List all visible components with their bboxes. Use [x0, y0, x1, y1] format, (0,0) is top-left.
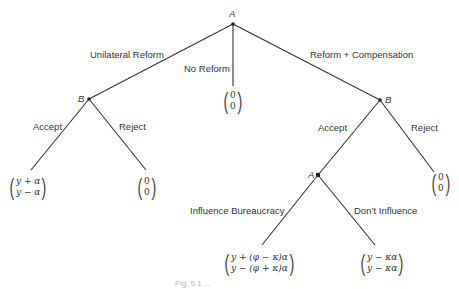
payoff-influence: ( y + (φ − κ)αy − (φ + κ)α ) [223, 251, 296, 275]
node-root-dot [231, 22, 235, 26]
payoff-bottom: 0 [438, 183, 444, 194]
payoff-bottom: 0 [144, 187, 150, 198]
edge-unilateral-reform [89, 24, 233, 99]
figure-caption: Fig. 5.1 ... [175, 279, 211, 288]
edge-label-no-reform: No Reform [184, 63, 230, 74]
edge-right-reject [380, 100, 434, 172]
node-root-label: A [229, 8, 235, 19]
payoff-top: 0 [144, 176, 150, 187]
right-paren-icon: ) [151, 175, 156, 199]
node-right-b-label: B [385, 94, 391, 105]
payoff-left-accept: ( y + αy − α ) [8, 175, 48, 199]
game-tree-lines [0, 0, 459, 289]
payoff-top: y + (φ − κ)α [231, 252, 288, 263]
right-paren-icon: ) [445, 171, 450, 195]
left-paren-icon: ( [432, 171, 437, 195]
right-paren-icon: ) [42, 175, 47, 199]
right-paren-icon: ) [290, 251, 295, 275]
edge-label-left-reject: Reject [119, 121, 146, 132]
node-inner-a-label: A [308, 169, 314, 180]
payoff-dont-influence: ( y − καy − κα ) [359, 251, 405, 275]
left-paren-icon: ( [10, 175, 15, 199]
node-inner-a-dot [316, 173, 320, 177]
edge-left-reject [89, 99, 146, 170]
payoff-bottom: y − κα [367, 263, 397, 274]
payoff-top: y − κα [367, 252, 397, 263]
left-paren-icon: ( [138, 175, 143, 199]
payoff-top: y + α [16, 176, 40, 187]
left-paren-icon: ( [225, 251, 230, 275]
payoff-bottom: y − α [16, 187, 40, 198]
right-paren-icon: ) [237, 89, 242, 113]
node-left-b-label: B [78, 93, 84, 104]
payoff-left-reject: ( 00 ) [136, 175, 158, 199]
edge-left-accept [31, 99, 89, 170]
left-paren-icon: ( [361, 251, 366, 275]
left-paren-icon: ( [224, 89, 229, 113]
edge-label-unilateral-reform: Unilateral Reform [90, 49, 164, 60]
edge-label-right-reject: Reject [411, 122, 438, 133]
right-paren-icon: ) [399, 251, 404, 275]
edge-right-accept [318, 100, 380, 175]
payoff-no-reform: ( 00 ) [222, 89, 244, 113]
payoff-bottom: y − (φ + κ)α [231, 263, 288, 274]
payoff-top: 0 [230, 90, 236, 101]
payoff-bottom: 0 [230, 101, 236, 112]
edge-label-right-accept: Accept [318, 122, 347, 133]
edge-label-dont-influence: Don’t Influence [354, 205, 417, 216]
payoff-right-reject: ( 00 ) [430, 171, 452, 195]
node-right-b-dot [378, 98, 382, 102]
edge-label-left-accept: Accept [33, 121, 62, 132]
payoff-top: 0 [438, 172, 444, 183]
edge-reform-compensation [233, 24, 380, 100]
edge-label-influence: Influence Bureaucracy [190, 205, 285, 216]
node-left-b-dot [87, 97, 91, 101]
edge-label-reform-compensation: Reform + Compensation [310, 49, 413, 60]
